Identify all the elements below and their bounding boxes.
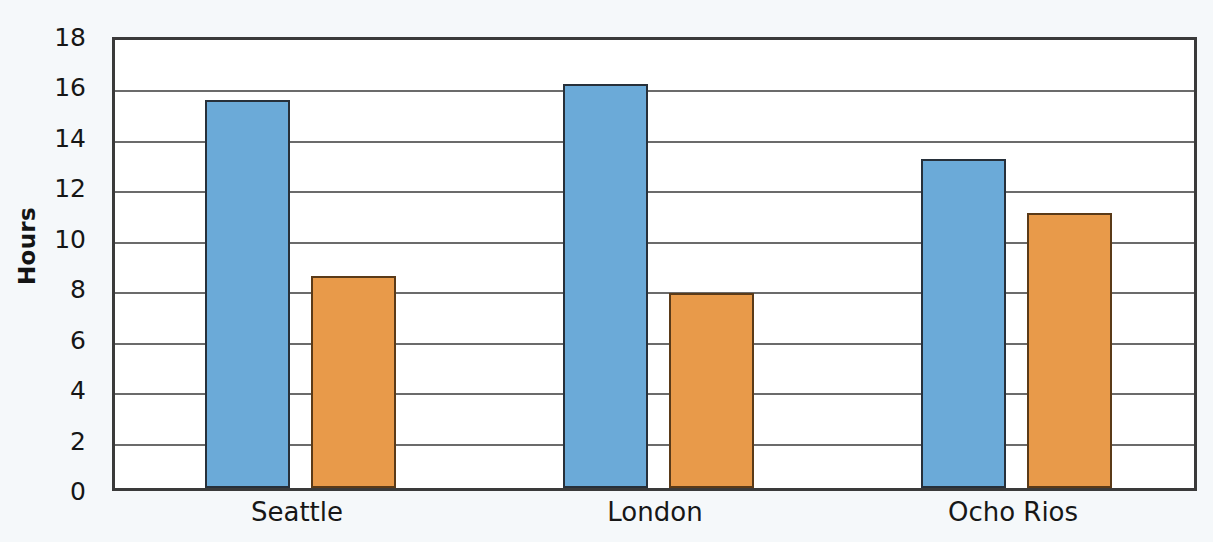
bar-london-series-1 (563, 84, 648, 488)
plot-inner (115, 40, 1194, 488)
y-tick-label-18: 18 (6, 25, 86, 50)
bar-seattle-series-1 (205, 100, 290, 488)
y-tick-label-0: 0 (6, 479, 86, 504)
plot-area (112, 37, 1197, 491)
bar-ocho-rios-series-1 (921, 159, 1006, 488)
y-tick-label-10: 10 (6, 226, 86, 251)
y-tick-label-6: 6 (6, 327, 86, 352)
y-tick-label-16: 16 (6, 75, 86, 100)
x-tick-label-london: London (607, 499, 702, 525)
y-tick-label-2: 2 (6, 428, 86, 453)
y-tick-label-14: 14 (6, 125, 86, 150)
bar-seattle-series-2 (311, 276, 396, 488)
x-tick-label-ocho-rios: Ocho Rios (948, 499, 1078, 525)
y-tick-label-8: 8 (6, 277, 86, 302)
bar-ocho-rios-series-2 (1027, 213, 1112, 488)
bar-london-series-2 (669, 293, 754, 488)
y-tick-label-12: 12 (6, 176, 86, 201)
gridline-16 (115, 90, 1194, 92)
bar-chart: Hours 024681012141618 SeattleLondonOcho … (0, 0, 1213, 542)
y-tick-label-4: 4 (6, 378, 86, 403)
x-tick-label-seattle: Seattle (251, 499, 343, 525)
